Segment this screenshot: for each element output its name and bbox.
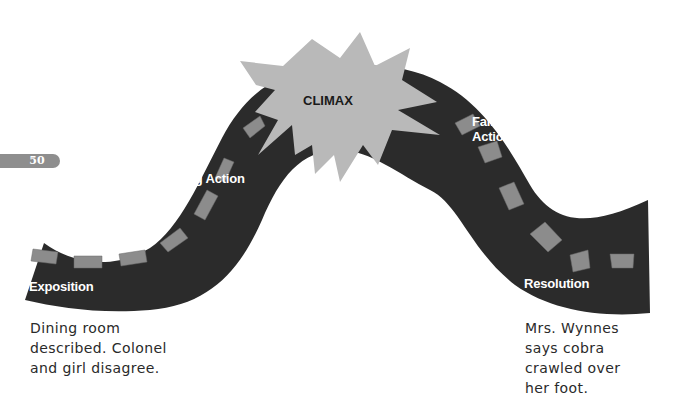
exposition-note-line: and girl disagree. [30, 358, 167, 378]
resolution-note-line: her foot. [525, 378, 620, 398]
page-number-badge: 50 [0, 154, 60, 168]
resolution-note-line: Mrs. Wynnes [525, 318, 620, 338]
exposition-label: Exposition [29, 279, 93, 294]
resolution-label: Resolution [524, 276, 589, 291]
page-number: 50 [20, 154, 54, 168]
falling-action-label-line1: Falling [472, 114, 513, 129]
plot-diagram: 50 CLIMAX Rising Action Falling Action E… [0, 0, 682, 410]
exposition-note-line: described. Colonel [30, 338, 167, 358]
exposition-note-line: Dining room [30, 318, 167, 338]
falling-action-label: Falling Action [472, 114, 513, 144]
rising-action-label: Rising Action [164, 171, 245, 186]
resolution-note-line: says cobra [525, 338, 620, 358]
resolution-note: Mrs. Wynnes says cobra crawled over her … [525, 318, 620, 398]
falling-action-label-line2: Action [472, 129, 513, 144]
resolution-note-line: crawled over [525, 358, 620, 378]
exposition-note: Dining room described. Colonel and girl … [30, 318, 167, 378]
climax-label: CLIMAX [303, 93, 353, 108]
